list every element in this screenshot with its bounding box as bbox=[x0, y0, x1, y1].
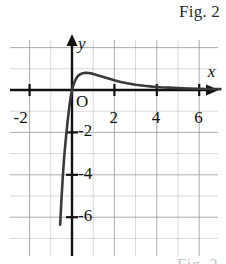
y-tick-label: -2 bbox=[78, 121, 92, 141]
x-tick-label: 2 bbox=[109, 108, 118, 128]
x-tick-label: 6 bbox=[194, 108, 203, 128]
vertical-gridlines bbox=[30, 40, 200, 256]
y-tick-label: -6 bbox=[78, 206, 92, 226]
x-axis-label: x bbox=[208, 62, 216, 82]
x-tick-label: 4 bbox=[152, 108, 161, 128]
figure-caption-bottom: Fig. 2 bbox=[177, 255, 218, 264]
y-tick-label: -4 bbox=[78, 164, 92, 184]
y-axis-label: y bbox=[78, 34, 86, 54]
origin-label: O bbox=[76, 92, 88, 112]
x-tick-label: -2 bbox=[14, 108, 28, 128]
